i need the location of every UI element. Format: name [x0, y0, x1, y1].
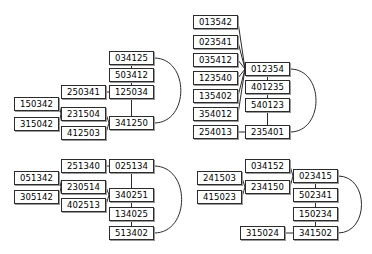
graph-node[interactable]: 354012	[193, 107, 238, 121]
graph-node[interactable]: 241503	[197, 171, 242, 185]
graph-edge	[238, 42, 245, 69]
graph-node[interactable]: 034125	[109, 51, 154, 65]
graph-edge	[238, 69, 245, 96]
graph-node[interactable]: 415023	[197, 190, 242, 204]
diagram-canvas: 0341255034121250342503411503422315043150…	[0, 0, 372, 254]
graph-node[interactable]: 401235	[245, 80, 290, 94]
graph-node[interactable]: 305142	[14, 190, 59, 204]
graph-node[interactable]: 034152	[245, 159, 290, 173]
graph-node[interactable]: 134025	[109, 207, 154, 221]
graph-node[interactable]: 412503	[61, 126, 106, 140]
graph-node[interactable]: 513402	[109, 226, 154, 240]
graph-node[interactable]: 540123	[245, 98, 290, 112]
graph-node[interactable]: 123540	[193, 71, 238, 85]
graph-node[interactable]: 341250	[109, 116, 154, 130]
graph-node[interactable]: 023541	[193, 35, 238, 49]
graph-node[interactable]: 150342	[14, 97, 59, 111]
graph-node[interactable]: 502341	[293, 188, 338, 202]
graph-node[interactable]: 254013	[193, 125, 238, 139]
graph-node[interactable]: 023415	[293, 169, 338, 183]
graph-node[interactable]: 025134	[109, 159, 154, 173]
graph-node[interactable]: 341502	[293, 226, 338, 240]
graph-edge	[154, 58, 181, 123]
graph-node[interactable]: 250341	[61, 85, 106, 99]
graph-node[interactable]: 012354	[245, 62, 290, 76]
graph-node[interactable]: 013542	[193, 15, 238, 29]
graph-edge	[290, 69, 316, 132]
graph-node[interactable]: 251340	[61, 159, 106, 173]
graph-node[interactable]: 234150	[245, 180, 290, 194]
graph-node[interactable]: 340251	[109, 188, 154, 202]
graph-edge	[238, 69, 245, 78]
graph-node[interactable]: 135402	[193, 89, 238, 103]
graph-edge	[238, 22, 245, 69]
graph-node[interactable]: 051342	[14, 171, 59, 185]
graph-edge	[238, 69, 245, 114]
graph-node[interactable]: 503412	[109, 68, 154, 82]
graph-edge	[238, 60, 245, 69]
graph-node[interactable]: 315042	[14, 117, 59, 131]
graph-node[interactable]: 230514	[61, 180, 106, 194]
graph-node[interactable]: 150234	[293, 207, 338, 221]
graph-node[interactable]: 035412	[193, 53, 238, 67]
graph-node[interactable]: 231504	[61, 107, 106, 121]
graph-node[interactable]: 125034	[109, 85, 154, 99]
graph-node[interactable]: 402513	[61, 198, 106, 212]
graph-node[interactable]: 235401	[245, 125, 290, 139]
graph-edge	[154, 166, 182, 233]
graph-edge	[338, 176, 362, 233]
graph-node[interactable]: 315024	[240, 226, 285, 240]
